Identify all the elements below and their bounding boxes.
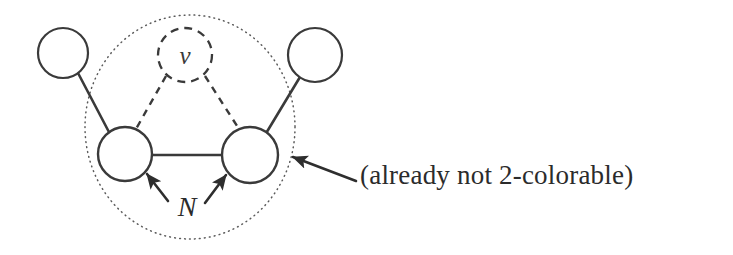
new-vertex-label: v [179,42,191,69]
arrow-to-region [293,157,356,181]
arrow-to-right-neighbor [205,175,226,203]
annotation-already-not-2-colorable: (already not 2-colorable) [360,160,633,191]
edge-new-vertex-to-left-neighbor [136,76,166,129]
node-top-right [288,28,342,82]
diagram-canvas: v N [0,0,733,255]
node-left-neighbor [98,127,152,181]
node-right-neighbor [222,127,278,183]
edge-top-left-to-left-neighbor [78,73,110,134]
arrow-to-left-neighbor [147,174,168,201]
graph-diagram: v N (already not 2-colorable) [0,0,733,255]
neighborhood-label: N [177,191,198,222]
node-top-left [38,28,88,78]
edge-new-vertex-to-right-neighbor [205,76,239,129]
